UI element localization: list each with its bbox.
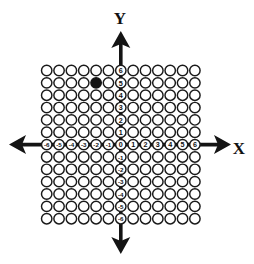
- lattice-dot: [165, 90, 175, 100]
- lattice-dot: [91, 102, 101, 112]
- lattice-dot: [165, 65, 175, 75]
- lattice-dot: [66, 176, 76, 186]
- lattice-dot: [66, 152, 76, 162]
- lattice-dot: [190, 214, 200, 224]
- lattice-dot: [103, 65, 113, 75]
- lattice-dot: [42, 214, 52, 224]
- lattice-dot: [103, 164, 113, 174]
- lattice-dot: [66, 127, 76, 137]
- lattice-dot: [66, 201, 76, 211]
- lattice-dot: [153, 127, 163, 137]
- lattice-dot: [128, 115, 138, 125]
- lattice-dot: [54, 176, 64, 186]
- lattice-dot: [54, 65, 64, 75]
- lattice-dot: [103, 90, 113, 100]
- x-tick-5: 5: [181, 140, 185, 149]
- plotted-point: [91, 78, 101, 88]
- x-tick--1: -1: [106, 141, 112, 148]
- x-tick--4: -4: [69, 141, 75, 148]
- lattice-dot: [42, 78, 52, 88]
- lattice-dot: [91, 176, 101, 186]
- plotted-points-group: [91, 78, 101, 88]
- lattice-dot: [190, 127, 200, 137]
- lattice-dot: [177, 176, 187, 186]
- x-tick-2: 2: [144, 140, 148, 149]
- lattice-dot: [66, 189, 76, 199]
- lattice-dot: [177, 201, 187, 211]
- lattice-dot: [128, 176, 138, 186]
- lattice-dot: [128, 102, 138, 112]
- lattice-dot: [177, 115, 187, 125]
- lattice-dot: [165, 78, 175, 88]
- lattice-dot: [91, 90, 101, 100]
- lattice-dot: [140, 78, 150, 88]
- lattice-dot: [66, 102, 76, 112]
- lattice-dot: [153, 90, 163, 100]
- x-tick--6: -6: [44, 141, 50, 148]
- lattice-dot: [79, 102, 89, 112]
- lattice-dot: [128, 152, 138, 162]
- lattice-dot: [153, 102, 163, 112]
- lattice-dot: [140, 152, 150, 162]
- lattice-dot: [91, 214, 101, 224]
- lattice-dot: [42, 65, 52, 75]
- lattice-dot: [128, 201, 138, 211]
- x-tick-1: 1: [131, 140, 135, 149]
- lattice-dot: [79, 115, 89, 125]
- lattice-dot: [66, 214, 76, 224]
- lattice-dot: [103, 201, 113, 211]
- coordinate-grid-svg: -6-5-4-3-2-1123456654321-1-2-3-4-5-60 X …: [0, 0, 254, 264]
- lattice-dot: [165, 201, 175, 211]
- lattice-dot: [42, 102, 52, 112]
- lattice-dot: [165, 214, 175, 224]
- lattice-dot: [177, 78, 187, 88]
- lattice-dot: [165, 127, 175, 137]
- lattice-dot: [79, 78, 89, 88]
- lattice-dot: [165, 164, 175, 174]
- y-tick--4: -4: [118, 191, 124, 198]
- lattice-dot: [190, 176, 200, 186]
- lattice-dot: [128, 214, 138, 224]
- lattice-dot: [42, 201, 52, 211]
- lattice-dot: [79, 152, 89, 162]
- x-tick--2: -2: [93, 141, 99, 148]
- lattice-dot: [79, 90, 89, 100]
- lattice-dot: [79, 65, 89, 75]
- lattice-dot: [140, 65, 150, 75]
- lattice-dot: [42, 127, 52, 137]
- lattice-dot: [54, 78, 64, 88]
- y-tick--2: -2: [118, 166, 124, 173]
- lattice-dot: [103, 189, 113, 199]
- lattice-dot: [54, 102, 64, 112]
- lattice-dot: [190, 164, 200, 174]
- lattice-dot: [54, 201, 64, 211]
- lattice-dot: [190, 65, 200, 75]
- lattice-dot: [128, 189, 138, 199]
- lattice-dot: [190, 152, 200, 162]
- lattice-dot: [165, 189, 175, 199]
- lattice-dot: [140, 201, 150, 211]
- lattice-dot: [91, 164, 101, 174]
- lattice-dot: [128, 78, 138, 88]
- y-tick-5: 5: [119, 79, 123, 88]
- y-tick-6: 6: [119, 66, 123, 75]
- x-tick-6: 6: [193, 140, 197, 149]
- lattice-dot: [103, 78, 113, 88]
- lattice-dot: [91, 115, 101, 125]
- lattice-dot: [103, 214, 113, 224]
- y-axis-label: Y: [114, 9, 126, 28]
- lattice-dot: [42, 189, 52, 199]
- y-tick-3: 3: [119, 103, 123, 112]
- lattice-dot: [79, 127, 89, 137]
- lattice-dot: [153, 189, 163, 199]
- y-tick-4: 4: [119, 91, 123, 100]
- lattice-dot: [128, 164, 138, 174]
- lattice-dot: [54, 214, 64, 224]
- lattice-dot: [103, 102, 113, 112]
- lattice-dot: [190, 102, 200, 112]
- lattice-dot: [190, 78, 200, 88]
- lattice-dot: [140, 90, 150, 100]
- lattice-dot: [54, 115, 64, 125]
- lattice-dot: [66, 65, 76, 75]
- coordinate-plane-figure: -6-5-4-3-2-1123456654321-1-2-3-4-5-60 X …: [0, 0, 254, 264]
